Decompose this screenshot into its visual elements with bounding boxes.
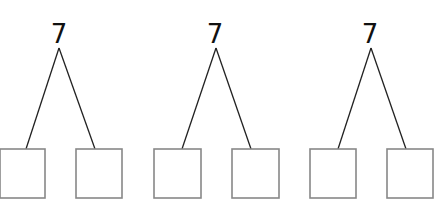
whole-number: 7 — [207, 19, 224, 49]
branch-right — [59, 48, 95, 149]
part-box-right[interactable] — [232, 149, 279, 198]
number-bond-1: 7 — [0, 19, 122, 198]
branch-left — [26, 48, 59, 149]
branch-right — [216, 48, 251, 149]
number-bonds-diagram: 7 7 7 — [0, 0, 436, 201]
part-box-left[interactable] — [0, 149, 45, 198]
branch-left — [182, 48, 216, 149]
branch-right — [371, 48, 406, 149]
part-box-right[interactable] — [387, 149, 433, 198]
part-box-left[interactable] — [310, 149, 356, 198]
branch-left — [338, 48, 371, 149]
number-bond-2: 7 — [154, 19, 279, 198]
number-bond-3: 7 — [310, 19, 433, 198]
part-box-right[interactable] — [76, 149, 122, 198]
part-box-left[interactable] — [154, 149, 201, 198]
whole-number: 7 — [362, 19, 379, 49]
whole-number: 7 — [51, 19, 68, 49]
